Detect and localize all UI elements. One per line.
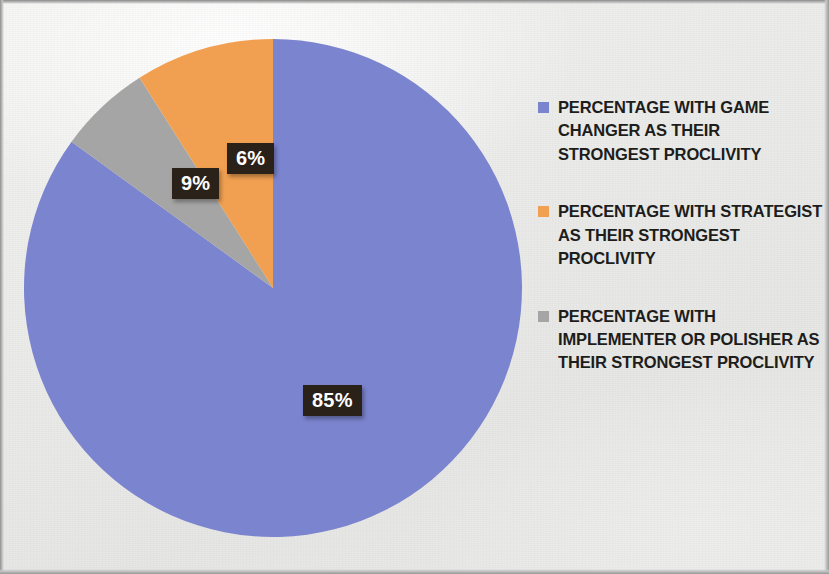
pie-slice-group — [24, 39, 522, 537]
legend-item-strategist: PERCENTAGE WITH STRATEGIST AS THEIR STRO… — [538, 200, 823, 270]
legend-label-game-changer: PERCENTAGE WITH GAME CHANGER AS THEIR ST… — [558, 96, 823, 166]
scan-edge-right — [824, 0, 829, 574]
data-label-strategist: 9% — [172, 168, 219, 199]
data-label-implementer-polisher: 6% — [227, 143, 274, 174]
data-label-game-changer: 85% — [303, 385, 362, 416]
legend-label-strategist: PERCENTAGE WITH STRATEGIST AS THEIR STRO… — [558, 200, 823, 270]
legend-swatch-gray — [538, 311, 549, 322]
scan-edge-bottom — [0, 569, 829, 574]
pie-chart-screenshot: 85% 9% 6% PERCENTAGE WITH GAME CHANGER A… — [0, 0, 829, 574]
legend-item-implementer-polisher: PERCENTAGE WITH IMPLEMENTER OR POLISHER … — [538, 305, 823, 375]
legend-swatch-blue — [538, 102, 549, 113]
chart-legend: PERCENTAGE WITH GAME CHANGER AS THEIR ST… — [538, 96, 823, 375]
pie-chart-plot-area — [24, 39, 522, 537]
pie-svg — [24, 39, 522, 537]
scan-edge-left — [0, 0, 4, 574]
scan-edge-top — [0, 0, 829, 4]
legend-swatch-orange — [538, 206, 549, 217]
legend-item-game-changer: PERCENTAGE WITH GAME CHANGER AS THEIR ST… — [538, 96, 823, 166]
legend-label-implementer-polisher: PERCENTAGE WITH IMPLEMENTER OR POLISHER … — [558, 305, 823, 375]
